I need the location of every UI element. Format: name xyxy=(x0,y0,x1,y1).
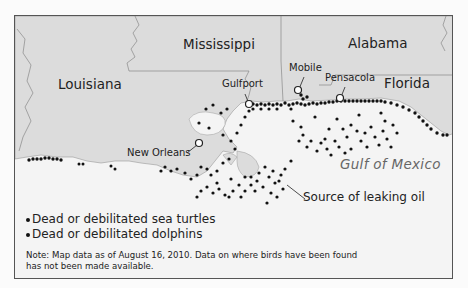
city-label-gulfport: Gulfport xyxy=(222,78,263,89)
mobile-marker xyxy=(295,87,302,94)
state-label-alabama: Alabama xyxy=(348,35,408,51)
city-label-new-orleans: New Orleans xyxy=(127,147,191,158)
dot-marker-icon xyxy=(26,218,30,222)
water-label-gulf-of-mexico: Gulf of Mexico xyxy=(340,156,441,172)
oil-source-label: Source of leaking oil xyxy=(303,190,425,204)
gulfport-marker xyxy=(246,101,253,108)
legend-item-turtles: Dead or debilitated sea turtles xyxy=(26,212,215,227)
state-label-florida: Florida xyxy=(384,75,430,91)
pensacola-marker xyxy=(337,95,344,102)
new-orleans-marker xyxy=(196,140,203,147)
legend: Dead or debilitated sea turtles Dead or … xyxy=(26,212,215,242)
dot-marker-icon xyxy=(26,233,30,237)
city-label-pensacola: Pensacola xyxy=(325,72,375,83)
state-label-mississippi: Mississippi xyxy=(183,36,255,52)
delta-island xyxy=(237,151,259,177)
state-label-louisiana: Louisiana xyxy=(58,76,122,92)
map-note: Note: Map data as of August 16, 2010. Da… xyxy=(26,250,366,272)
city-label-mobile: Mobile xyxy=(289,62,322,73)
legend-item-dolphins: Dead or debilitated dolphins xyxy=(26,227,215,242)
